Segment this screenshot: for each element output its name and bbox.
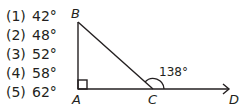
segment-bc: [78, 22, 153, 89]
point-label-d: D: [229, 92, 239, 107]
angle-label: 138°: [159, 65, 188, 79]
triangle-diagram: B A C D 138°: [0, 0, 247, 110]
point-label-a: A: [71, 92, 81, 107]
point-label-b: B: [71, 6, 80, 21]
point-label-c: C: [148, 92, 158, 107]
right-angle-mark: [78, 80, 87, 89]
